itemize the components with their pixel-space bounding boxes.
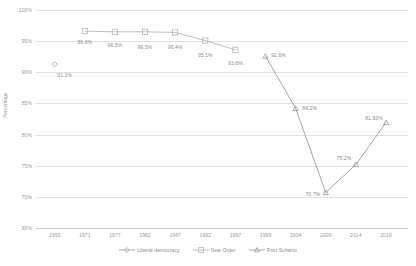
- legend-marker-icon: [249, 246, 265, 254]
- data-point-marker: [383, 120, 388, 125]
- y-axis-tick-label: 95%: [22, 38, 32, 44]
- data-point-label: 92.6%: [271, 52, 286, 58]
- y-axis-tick-label: 90%: [22, 69, 32, 75]
- x-axis-line: [36, 228, 408, 229]
- y-axis-tick-label: 85%: [22, 100, 32, 106]
- x-axis-tick-label: 2004: [290, 232, 302, 238]
- y-axis-title: Percentage: [2, 92, 8, 118]
- x-axis-tick-label: 1971: [79, 232, 91, 238]
- plot-area: 100%95%90%85%80%75%70%65% 91.3%96.6%96.5…: [36, 10, 408, 228]
- x-axis-tick-label: 1977: [109, 232, 121, 238]
- data-point-label: 96.5%: [108, 42, 123, 48]
- x-axis-tick-label: 1999: [260, 232, 272, 238]
- series-line: [266, 56, 386, 192]
- x-axis-tick-label: 1992: [200, 232, 212, 238]
- line-chart: Percentage 100%95%90%85%80%75%70%65% 91.…: [0, 0, 416, 266]
- legend-label: Post Suharto: [267, 247, 297, 253]
- data-point-marker: [233, 47, 238, 52]
- y-axis-tick-label: 65%: [22, 225, 32, 231]
- data-point-marker: [263, 53, 268, 58]
- legend-label: Liberal democracy: [137, 247, 180, 253]
- data-point-label: 84.2%: [302, 105, 317, 111]
- data-point-label: 96.4%: [168, 44, 183, 50]
- chart-legend: Liberal democracyNew OrderPost Suharto: [0, 246, 416, 254]
- data-point-label: 70.7%: [305, 191, 320, 197]
- y-axis-tick-label: 80%: [22, 132, 32, 138]
- y-axis-tick-label: 70%: [22, 194, 32, 200]
- y-axis-tick-label: 75%: [22, 163, 32, 169]
- legend-marker-icon: [193, 246, 209, 254]
- data-point-marker: [52, 62, 57, 67]
- data-point-label: 75.2%: [337, 155, 352, 161]
- x-axis-tick-label: 1982: [139, 232, 151, 238]
- data-point-label: 96.6%: [77, 39, 92, 45]
- x-axis-tick-label: 2019: [380, 232, 392, 238]
- data-point-label: 81.93%: [365, 115, 383, 121]
- data-point-label: 95.1%: [198, 52, 213, 58]
- x-axis-tick-label: 2014: [350, 232, 362, 238]
- legend-item[interactable]: Liberal democracy: [119, 246, 180, 254]
- data-point-label: 96.5%: [138, 44, 153, 50]
- x-axis-tick-label: 1997: [230, 232, 242, 238]
- x-axis-tick-label: 2009: [320, 232, 332, 238]
- legend-marker-icon: [119, 246, 135, 254]
- data-point-label: 91.3%: [57, 72, 72, 78]
- legend-label: New Order: [211, 247, 236, 253]
- legend-item[interactable]: Post Suharto: [249, 246, 297, 254]
- data-point-label: 93.6%: [228, 60, 243, 66]
- x-axis-tick-label: 1987: [169, 232, 181, 238]
- y-axis-tick-label: 100%: [19, 7, 32, 13]
- legend-item[interactable]: New Order: [193, 246, 236, 254]
- x-axis-tick-label: 1955: [49, 232, 61, 238]
